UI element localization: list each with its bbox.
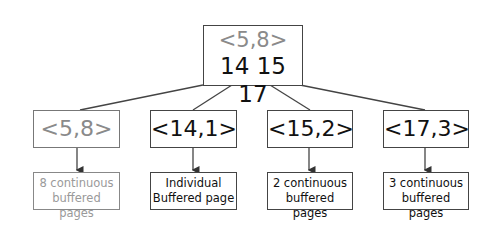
child-node-2: <14,1> — [150, 110, 237, 148]
leaf-line-1: 2 continuous — [268, 176, 352, 191]
root-range-label: <5,8> — [204, 28, 302, 52]
child-node-3: <15,2> — [267, 110, 353, 148]
child-node-1: <5,8> — [33, 110, 120, 148]
leaf-line-1: 8 continuous — [34, 176, 119, 191]
leaf-line-2: buffered pages — [34, 191, 119, 221]
leaf-node-1: 8 continuous buffered pages — [33, 172, 120, 210]
leaf-line-1: 3 continuous — [384, 176, 468, 191]
edge-root-child-4 — [300, 85, 425, 110]
edge-root-child-1 — [80, 85, 203, 110]
leaf-node-2: Individual Buffered page — [150, 172, 237, 210]
leaf-node-3: 2 continuous buffered pages — [267, 172, 353, 210]
child-node-4: <17,3> — [383, 110, 469, 148]
leaf-line-2: buffered pages — [384, 191, 468, 221]
leaf-line-2: buffered pages — [268, 191, 352, 221]
root-node: <5,8> 14 15 17 — [203, 25, 303, 86]
leaf-line-2: Buffered page — [151, 191, 236, 206]
root-keys-label: 14 15 17 — [204, 52, 302, 108]
leaf-line-1: Individual — [151, 176, 236, 191]
leaf-node-4: 3 continuous buffered pages — [383, 172, 469, 210]
